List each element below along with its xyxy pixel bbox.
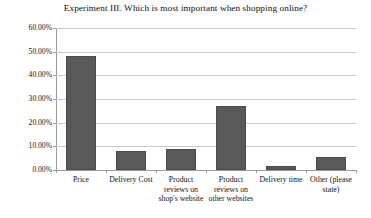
plot-area <box>56 28 356 170</box>
x-axis-label-line: shop's website <box>156 194 206 204</box>
y-axis-tick-label: 60.00% <box>4 24 52 32</box>
y-axis-tick-mark <box>53 123 56 124</box>
gridline <box>56 99 356 100</box>
y-axis-tick-mark <box>53 28 56 29</box>
x-axis-category-label: Price <box>56 175 106 185</box>
x-axis-label-line: state) <box>306 185 356 195</box>
x-axis-tick-mark <box>106 170 107 173</box>
x-axis-category-label: Delivery time <box>256 175 306 185</box>
chart-title: Experiment III. Which is most important … <box>0 2 371 14</box>
gridline <box>56 75 356 76</box>
x-axis-label-line: reviews on <box>156 185 206 195</box>
x-axis-label-line: Other (please <box>306 175 356 185</box>
y-axis-tick-label: 40.00% <box>4 71 52 79</box>
x-axis-tick-mark <box>56 170 57 173</box>
x-axis-category-label: Delivery Cost <box>106 175 156 185</box>
gridline <box>56 28 356 29</box>
bar <box>216 106 246 170</box>
y-axis-tick-label: 20.00% <box>4 119 52 127</box>
x-axis-label-line: reviews on <box>206 185 256 195</box>
x-axis-tick-mark <box>256 170 257 173</box>
bar <box>166 149 196 170</box>
x-axis-tick-mark <box>206 170 207 173</box>
y-axis-tick-label: 30.00% <box>4 95 52 103</box>
bar <box>116 151 146 170</box>
x-axis-label-line: other websites <box>206 194 256 204</box>
gridline <box>56 52 356 53</box>
gridline <box>56 146 356 147</box>
y-axis-tick-label: 10.00% <box>4 142 52 150</box>
y-axis-tick-mark <box>53 99 56 100</box>
y-axis-tick-label: 50.00% <box>4 48 52 56</box>
x-axis-category-label: Productreviews onshop's website <box>156 175 206 204</box>
bar <box>316 157 346 170</box>
gridline <box>56 123 356 124</box>
y-axis-tick-labels: 0.00%10.00%20.00%30.00%40.00%50.00%60.00… <box>0 0 52 218</box>
y-axis-tick-label: 0.00% <box>4 166 52 174</box>
y-axis-tick-mark <box>53 75 56 76</box>
x-axis-label-line: Delivery time <box>256 175 306 185</box>
bar <box>266 166 296 170</box>
x-axis-label-line: Price <box>56 175 106 185</box>
x-axis-tick-mark <box>156 170 157 173</box>
x-axis-label-line: Product <box>206 175 256 185</box>
y-axis-tick-mark <box>53 146 56 147</box>
y-axis-tick-mark <box>53 52 56 53</box>
x-axis-label-line: Product <box>156 175 206 185</box>
x-axis-tick-mark <box>306 170 307 173</box>
x-axis-category-label: Productreviews onother websites <box>206 175 256 204</box>
x-axis-category-label: Other (pleasestate) <box>306 175 356 194</box>
x-axis-label-line: Delivery Cost <box>106 175 156 185</box>
bar <box>66 56 96 170</box>
x-axis-category-labels: PriceDelivery CostProductreviews onshop'… <box>56 175 356 217</box>
bar-chart: Experiment III. Which is most important … <box>0 0 371 218</box>
x-axis-tick-mark <box>356 170 357 173</box>
